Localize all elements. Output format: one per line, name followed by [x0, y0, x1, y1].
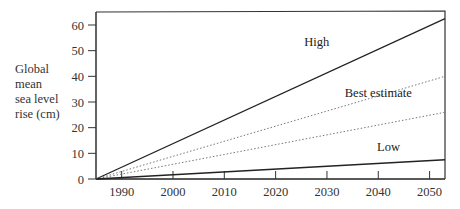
x-tick-label: 2030 [314, 185, 339, 199]
x-tick-label: 2010 [212, 185, 237, 199]
series-label: Low [377, 140, 400, 154]
y-tick-label: 50 [72, 44, 85, 58]
y-tick-label: 40 [72, 70, 85, 84]
series-label: Best estimate [345, 86, 412, 100]
x-tick-label: 2040 [366, 185, 391, 199]
y-tick-label: 10 [72, 147, 85, 161]
y-tick-label: 20 [72, 121, 85, 135]
series-label: High [304, 35, 330, 49]
y-tick-label: 60 [72, 19, 85, 33]
x-tick-label: 2000 [160, 185, 185, 199]
y-tick-label: 0 [78, 173, 84, 187]
y-tick-label: 30 [72, 96, 85, 110]
sea-level-chart: 0102030405060199020002010202020302040205… [0, 0, 460, 209]
x-tick-label: 2050 [417, 185, 442, 199]
x-tick-label: 2020 [263, 185, 288, 199]
x-tick-label: 1990 [109, 185, 134, 199]
